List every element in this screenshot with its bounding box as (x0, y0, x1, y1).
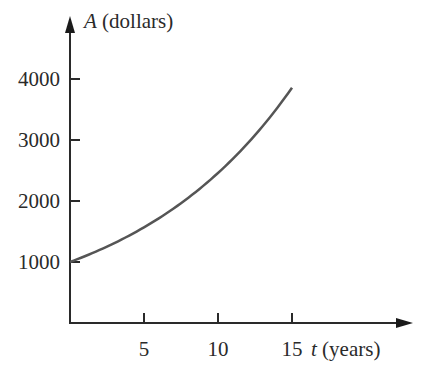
y-axis-label: A (dollars) (82, 9, 173, 33)
y-tick-label: 2000 (18, 189, 60, 213)
x-axis-arrow-icon (396, 318, 413, 328)
x-tick-label: 15 (282, 337, 303, 361)
y-tick-label: 1000 (18, 250, 60, 274)
y-tick-label: 3000 (18, 128, 60, 152)
x-tick-label: 10 (208, 337, 229, 361)
x-tick-label: 5 (139, 337, 150, 361)
x-axis-label: t (years) (311, 337, 380, 361)
y-tick-label: 4000 (18, 67, 60, 91)
chart: 1000200030004000 51015 A (dollars) t (ye… (0, 0, 433, 374)
y-axis-arrow-icon (65, 16, 75, 33)
x-ticks: 51015 (139, 313, 303, 361)
growth-curve (70, 88, 292, 262)
